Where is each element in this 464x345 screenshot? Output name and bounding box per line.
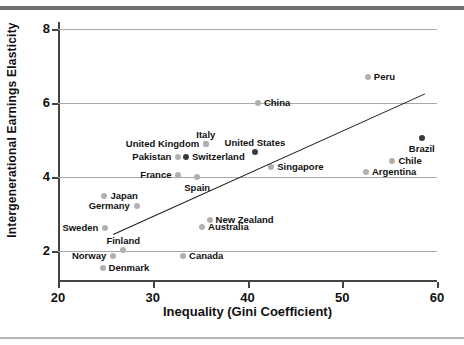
data-point-label: Argentina xyxy=(372,167,416,177)
x-tick-50 xyxy=(342,282,344,288)
data-point-label: Germany xyxy=(89,201,130,211)
figure-bottom-rule xyxy=(0,337,464,339)
y-axis-line xyxy=(58,22,60,281)
x-tick-40 xyxy=(248,282,250,288)
data-point xyxy=(175,154,181,160)
data-point xyxy=(183,154,189,160)
data-point-label: Finland xyxy=(106,236,140,246)
data-point xyxy=(255,100,261,106)
gridline-y-8 xyxy=(58,29,437,30)
data-point-label: United States xyxy=(225,138,286,148)
figure-top-rule xyxy=(0,6,464,10)
x-tick-label-30: 30 xyxy=(133,291,173,304)
x-tick-30 xyxy=(153,282,155,288)
data-point-label: Canada xyxy=(189,251,223,261)
gridline-y-4 xyxy=(58,177,437,178)
x-tick-label-50: 50 xyxy=(322,291,362,304)
data-point xyxy=(365,74,371,80)
data-point xyxy=(363,169,369,175)
data-point-label: Australia xyxy=(208,222,249,232)
data-point xyxy=(134,203,140,209)
data-point xyxy=(268,164,274,170)
y-tick-4 xyxy=(52,177,58,179)
x-tick-label-60: 60 xyxy=(417,291,457,304)
y-tick-label-8: 8 xyxy=(22,22,50,35)
data-point-label: Japan xyxy=(110,191,137,201)
y-axis-title: Intergenerational Earnings Elasticity xyxy=(2,0,22,259)
plot-area: PeruBrazilChileArgentinaChinaItalyUnited… xyxy=(58,22,437,281)
data-point-label: United Kingdom xyxy=(126,139,199,149)
data-point xyxy=(120,247,126,253)
data-point-label: China xyxy=(264,98,290,108)
data-point xyxy=(389,158,395,164)
data-point xyxy=(180,253,186,259)
y-tick-label-2: 2 xyxy=(22,244,50,257)
data-point-label: France xyxy=(140,170,171,180)
chart-figure: Intergenerational Earnings Elasticity Pe… xyxy=(0,0,464,345)
y-axis-title-text: Intergenerational Earnings Elasticity xyxy=(5,22,19,237)
x-tick-label-20: 20 xyxy=(38,291,78,304)
data-point xyxy=(203,141,209,147)
y-tick-8 xyxy=(52,29,58,31)
data-point-label: Sweden xyxy=(62,223,98,233)
y-tick-2 xyxy=(52,251,58,253)
data-point-label: Chile xyxy=(398,156,421,166)
data-point-label: Norway xyxy=(72,251,106,261)
data-point xyxy=(194,174,200,180)
x-tick-20 xyxy=(58,282,60,288)
data-point-label: Brazil xyxy=(409,144,435,154)
data-point xyxy=(110,253,116,259)
data-point xyxy=(175,172,181,178)
data-point xyxy=(101,193,107,199)
data-point-label: Pakistan xyxy=(132,152,171,162)
y-tick-label-6: 6 xyxy=(22,96,50,109)
data-point xyxy=(100,265,106,271)
data-point xyxy=(419,135,425,141)
data-point-label: Switzerland xyxy=(192,152,245,162)
data-point xyxy=(102,225,108,231)
y-tick-label-4: 4 xyxy=(22,170,50,183)
gridline-y-2 xyxy=(58,251,437,252)
gridline-y-6 xyxy=(58,103,437,104)
x-tick-label-40: 40 xyxy=(228,291,268,304)
x-axis-title: Inequality (Gini Coefficient) xyxy=(58,304,437,319)
y-tick-6 xyxy=(52,103,58,105)
data-point xyxy=(199,224,205,230)
data-point-label: Singapore xyxy=(277,162,323,172)
data-point-label: Peru xyxy=(374,72,395,82)
data-point xyxy=(252,149,258,155)
x-tick-60 xyxy=(437,282,439,288)
data-point-label: Denmark xyxy=(109,263,150,273)
